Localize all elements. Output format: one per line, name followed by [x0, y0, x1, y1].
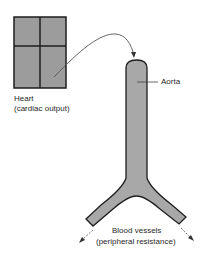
diagram-canvas: [0, 0, 210, 261]
aorta-label: Aorta: [161, 77, 180, 87]
vessels-label: Blood vessels: [112, 226, 161, 236]
heart-chambers-icon: [14, 17, 66, 88]
vessels-sublabel: (peripheral resistance): [96, 237, 176, 247]
heart-label: Heart: [14, 94, 34, 104]
outflow-arrow-left: [79, 230, 93, 243]
heart-sublabel: (cardiac output): [14, 104, 70, 114]
outflow-arrow-right: [181, 228, 194, 241]
